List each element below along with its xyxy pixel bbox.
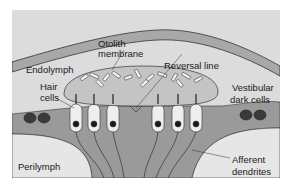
- endolymph-label: Endolymph: [26, 64, 74, 75]
- reversal-line-label: Reversal line: [164, 60, 219, 71]
- afferent-dendrites-label-line1: Afferent: [232, 154, 265, 165]
- hair-cells-label-line2: cells: [40, 92, 59, 103]
- perilymph-label: Perilymph: [18, 161, 60, 172]
- hair-cells-label-line1: Hair: [40, 81, 57, 92]
- otolith-organ-diagram: Endolymph Otolith membrane Reversal line…: [12, 10, 280, 178]
- vestibular-dark-cells-label-line1: Vestibular: [232, 82, 274, 93]
- vestibular-dark-cells-label-line2: dark cells: [230, 94, 270, 105]
- afferent-dendrites-label-line2: dendrites: [232, 166, 271, 177]
- otolith-membrane-label-line2: membrane: [98, 48, 143, 59]
